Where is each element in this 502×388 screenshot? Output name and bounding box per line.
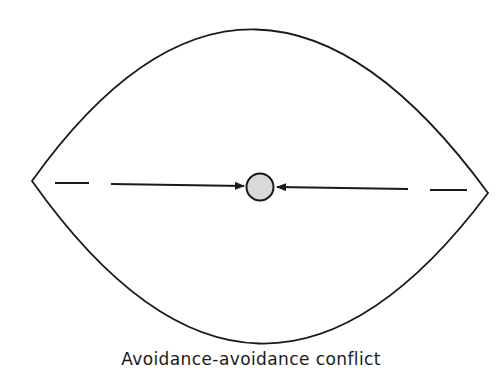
left-force-arrow xyxy=(111,184,244,186)
left-avoidance-force xyxy=(55,183,244,186)
right-force-arrow xyxy=(277,187,408,189)
figure-caption: Avoidance-avoidance conflict xyxy=(0,349,502,369)
avoidance-avoidance-diagram xyxy=(0,0,502,388)
right-avoidance-force xyxy=(277,187,467,190)
person-circle xyxy=(247,174,274,201)
